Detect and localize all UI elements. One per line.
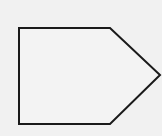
diagram-canvas: [0, 0, 162, 136]
pentagon-shape-outline: [19, 28, 160, 124]
pentagon-arrow-shape: [0, 0, 162, 136]
